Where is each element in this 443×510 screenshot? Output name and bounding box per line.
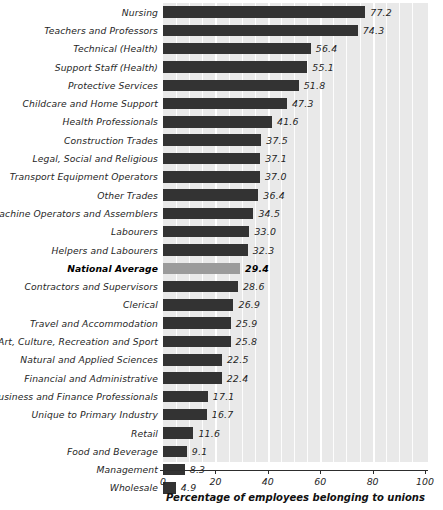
bar-category-label: Health Professionals [0,116,158,127]
bar[interactable] [163,372,222,384]
bar[interactable] [163,354,222,366]
bar-and-value: 51.8 [163,76,325,94]
bar[interactable] [163,43,311,55]
bar-value-label: 51.8 [304,80,326,91]
bar-and-value: 11.6 [163,424,220,442]
bar-row[interactable]: Unique to Primary Industry16.7 [0,406,443,424]
x-tick-mark [215,470,216,474]
bar[interactable] [163,391,208,403]
bar-value-label: 26.9 [238,299,260,310]
bar[interactable] [163,189,258,201]
bar-row[interactable]: Childcare and Home Support47.3 [0,95,443,113]
bar-row[interactable]: Nursing77.2 [0,3,443,21]
bar-row[interactable]: Travel and Accommodation25.9 [0,314,443,332]
bar-category-label: Labourers [0,226,158,237]
bar-row[interactable]: Teachers and Professors74.3 [0,21,443,39]
bar-value-label: 37.5 [266,135,288,146]
bar-row[interactable]: Labourers33.0 [0,223,443,241]
bar-category-label: Business and Finance Professionals [0,391,158,402]
bar-and-value: 41.6 [163,113,299,131]
bar[interactable] [163,134,261,146]
bar[interactable] [163,98,287,110]
bar-row[interactable]: Legal, Social and Religious37.1 [0,149,443,167]
bar-and-value: 33.0 [163,223,276,241]
bar-and-value: 25.8 [163,332,257,350]
bar-and-value: 9.1 [163,442,207,460]
bar-row[interactable]: Contractors and Supervisors28.6 [0,278,443,296]
bar-value-label: 17.1 [213,391,235,402]
bar-row[interactable]: Natural and Applied Sciences22.5 [0,351,443,369]
bar[interactable] [163,208,253,220]
bar[interactable] [163,25,358,37]
bar[interactable] [163,317,231,329]
x-axis-line [160,470,428,471]
bar-value-label: 25.8 [236,336,258,347]
bar-row[interactable]: Clerical26.9 [0,296,443,314]
bar-category-label: Food and Beverage [0,446,158,457]
bar-and-value: 26.9 [163,296,260,314]
bar-and-value: 16.7 [163,406,233,424]
bar[interactable] [163,80,299,92]
x-tick-label: 60 [314,476,326,487]
bar-category-label: Teachers and Professors [0,25,158,36]
bar-row[interactable]: Financial and Administrative22.4 [0,369,443,387]
bar[interactable] [163,6,365,18]
bar-category-label: Childcare and Home Support [0,98,158,109]
bar[interactable] [163,427,193,439]
bar-row[interactable]: Food and Beverage9.1 [0,442,443,460]
bar-category-label: Wholesale [0,482,158,493]
bar-category-label: Clerical [0,299,158,310]
bar-and-value: 74.3 [163,21,384,39]
bar-row[interactable]: Art, Culture, Recreation and Sport25.8 [0,332,443,350]
bar-category-label: Retail [0,428,158,439]
x-tick-mark [373,470,374,474]
bar-row[interactable]: Support Staff (Health)55.1 [0,58,443,76]
bar[interactable] [163,116,272,128]
bar-row[interactable]: Helpers and Labourers32.3 [0,241,443,259]
bar-category-label: Other Trades [0,190,158,201]
bar-category-label: Unique to Primary Industry [0,409,158,420]
bar-value-label: 47.3 [292,98,314,109]
x-tick-mark [163,470,164,474]
bar[interactable] [163,281,238,293]
bar-row[interactable]: Business and Finance Professionals17.1 [0,387,443,405]
x-tick-label: 80 [367,476,379,487]
bar[interactable] [163,446,187,458]
bar-category-label: Nursing [0,7,158,18]
bar[interactable] [163,409,207,421]
bar[interactable] [163,153,260,165]
bar-value-label: 22.5 [227,354,249,365]
bar[interactable] [163,61,307,73]
bar-row[interactable]: Retail11.6 [0,424,443,442]
bar-value-label: 36.4 [263,190,285,201]
bar[interactable] [163,299,233,311]
bar-category-label: Protective Services [0,80,158,91]
bar-and-value: 47.3 [163,95,314,113]
bar-row[interactable]: Health Professionals41.6 [0,113,443,131]
bar[interactable] [163,263,240,275]
bar-row[interactable]: Protective Services51.8 [0,76,443,94]
bar-row-national-average[interactable]: National Average29.4 [0,259,443,277]
bar-value-label: 22.4 [227,373,249,384]
bar-category-label: Travel and Accommodation [0,318,158,329]
bar-and-value: 28.6 [163,278,265,296]
bar-row[interactable]: Construction Trades37.5 [0,131,443,149]
bar[interactable] [163,226,249,238]
bar-and-value: 37.5 [163,131,288,149]
bar-and-value: 22.4 [163,369,248,387]
bar-row[interactable]: Transport Equipment Operators37.0 [0,168,443,186]
bar-value-label: 56.4 [316,43,338,54]
bar-value-label: 32.3 [253,245,275,256]
bar-value-label: 29.4 [245,263,269,274]
bar-row[interactable]: Other Trades36.4 [0,186,443,204]
bar-row[interactable]: Machine Operators and Assemblers34.5 [0,204,443,222]
bar-value-label: 25.9 [236,318,258,329]
bar-value-label: 41.6 [277,116,299,127]
bar[interactable] [163,336,231,348]
union-membership-bar-chart: Nursing77.2Teachers and Professors74.3Te… [0,0,443,510]
bar-category-label: Natural and Applied Sciences [0,354,158,365]
bar-row[interactable]: Technical (Health)56.4 [0,40,443,58]
bar[interactable] [163,244,248,256]
x-axis-title: Percentage of employees belonging to uni… [163,492,428,504]
bar[interactable] [163,171,260,183]
